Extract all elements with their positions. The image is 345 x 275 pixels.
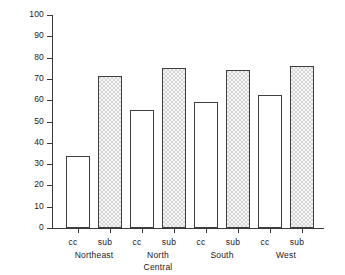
series-label-cc: cc bbox=[120, 237, 154, 248]
y-axis-tick-label: 80 bbox=[34, 52, 44, 63]
y-axis-tick: 40 bbox=[47, 143, 52, 144]
y-axis-tick: 10 bbox=[47, 207, 52, 208]
y-axis-tick-label: 10 bbox=[34, 201, 44, 212]
series-label-sub: sub bbox=[280, 237, 314, 248]
bar-northeast-sub bbox=[98, 76, 122, 228]
x-axis-tick bbox=[238, 228, 239, 233]
series-label-cc: cc bbox=[248, 237, 282, 248]
y-axis-tick-label: 40 bbox=[34, 137, 44, 148]
x-axis-tick bbox=[142, 228, 143, 233]
bar-west-sub bbox=[290, 66, 314, 228]
bar-northeast-cc bbox=[66, 156, 90, 228]
y-axis-line bbox=[52, 15, 53, 228]
y-axis-tick: 60 bbox=[47, 100, 52, 101]
group-label-line: Central bbox=[110, 262, 206, 274]
bar-north-central-cc bbox=[130, 110, 154, 228]
group-label-west: West bbox=[238, 250, 334, 262]
y-axis-tick: 100 bbox=[47, 15, 52, 16]
y-axis-tick: 50 bbox=[47, 122, 52, 123]
series-label-cc: cc bbox=[56, 237, 90, 248]
x-axis-tick bbox=[206, 228, 207, 233]
x-axis-tick bbox=[174, 228, 175, 233]
bar-south-sub bbox=[226, 70, 250, 228]
y-axis-tick: 70 bbox=[47, 79, 52, 80]
bar-chart: Annual Cost ($) 1009080706050403020100 c… bbox=[0, 0, 345, 275]
y-axis-tick: 90 bbox=[47, 36, 52, 37]
y-axis-tick-label: 30 bbox=[34, 158, 44, 169]
x-axis-tick bbox=[78, 228, 79, 233]
y-axis-tick: 30 bbox=[47, 164, 52, 165]
y-axis-tick-label: 70 bbox=[34, 73, 44, 84]
series-label-sub: sub bbox=[152, 237, 186, 248]
series-label-cc: cc bbox=[184, 237, 218, 248]
y-axis-tick-label: 60 bbox=[34, 94, 44, 105]
group-label-line: West bbox=[238, 250, 334, 262]
bar-south-cc bbox=[194, 102, 218, 228]
y-axis-tick-label: 50 bbox=[34, 116, 44, 127]
x-axis-tick bbox=[270, 228, 271, 233]
y-axis-tick: 80 bbox=[47, 58, 52, 59]
bar-west-cc bbox=[258, 95, 282, 228]
series-label-sub: sub bbox=[216, 237, 250, 248]
bar-north-central-sub bbox=[162, 68, 186, 228]
y-axis-tick: 20 bbox=[47, 185, 52, 186]
series-label-sub: sub bbox=[88, 237, 122, 248]
x-axis-line bbox=[52, 228, 324, 229]
y-axis-tick: 0 bbox=[47, 228, 52, 229]
x-axis-tick bbox=[302, 228, 303, 233]
plot-area: 1009080706050403020100 ccsubccsubccsubcc… bbox=[52, 15, 324, 228]
y-axis-tick-label: 20 bbox=[34, 179, 44, 190]
x-axis-tick bbox=[110, 228, 111, 233]
y-axis-tick-label: 90 bbox=[34, 30, 44, 41]
y-axis-tick-label: 100 bbox=[29, 9, 44, 20]
y-axis-tick-label: 0 bbox=[39, 222, 44, 233]
